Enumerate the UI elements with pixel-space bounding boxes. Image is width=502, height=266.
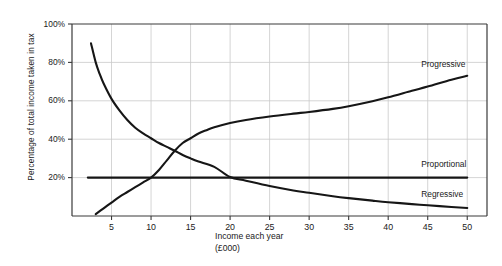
x-tick-label-45: 45 [416, 222, 440, 232]
series-label-proportional: Proportional [421, 159, 466, 169]
y-tick-label-40%: 40% [31, 134, 65, 144]
y-tick-label-80%: 80% [31, 57, 65, 67]
x-tick-label-50: 50 [455, 222, 479, 232]
x-tick-label-10: 10 [139, 222, 163, 232]
series-line-regressive [91, 43, 467, 208]
x-tick-label-20: 20 [218, 222, 242, 232]
x-tick-label-5: 5 [100, 222, 124, 232]
y-axis-title-text: Percentage of total income taken in tax [26, 33, 35, 180]
x-tick-label-15: 15 [179, 222, 203, 232]
x-tick-label-25: 25 [258, 222, 282, 232]
x-tick-label-35: 35 [337, 222, 361, 232]
x-axis-title: Income each year (£000) [215, 231, 365, 254]
chart-figure: Percentage of total income taken in tax … [0, 0, 502, 266]
series-label-progressive: Progressive [421, 59, 465, 69]
x-axis-units-text: (£000) [215, 243, 365, 255]
x-tick-label-40: 40 [376, 222, 400, 232]
series-label-regressive: Regressive [421, 189, 463, 199]
series-lines [88, 43, 467, 214]
y-tick-label-100%: 100% [31, 19, 65, 29]
y-tick-label-20%: 20% [31, 172, 65, 182]
y-tick-label-60%: 60% [31, 95, 65, 105]
y-axis-title: Percentage of total income taken in tax [22, 0, 40, 215]
x-axis-title-text: Income each year [215, 231, 365, 243]
x-tick-label-30: 30 [297, 222, 321, 232]
